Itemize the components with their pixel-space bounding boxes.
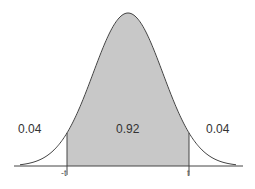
shaded-center-region bbox=[67, 13, 189, 166]
tick-label-right: t bbox=[187, 168, 190, 178]
normal-distribution-chart bbox=[0, 0, 255, 189]
tick-label-left: -t bbox=[61, 168, 67, 178]
center-area-label: 0.92 bbox=[116, 122, 139, 136]
right-tail-label: 0.04 bbox=[206, 122, 229, 136]
left-tail-label: 0.04 bbox=[18, 122, 41, 136]
